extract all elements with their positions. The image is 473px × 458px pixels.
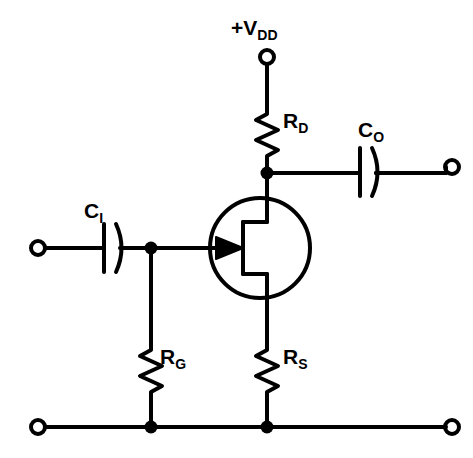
ground-source-node-junction (261, 421, 274, 434)
ground-left-terminal-icon (31, 420, 45, 434)
resistor-rd (256, 108, 278, 173)
resistor-rs (256, 344, 278, 427)
source-resistor-label-main: R (283, 345, 298, 368)
output-capacitor-label-sub: O (373, 129, 384, 145)
supply-terminal-icon (260, 50, 274, 64)
gate-resistor-label-sub: G (175, 356, 186, 372)
source-resistor-label: RS (283, 346, 308, 367)
input-capacitor-label: CI (84, 200, 103, 221)
circuit-diagram: +VDD RD CO CI RG RS (0, 0, 473, 458)
supply-label-main: +V (231, 16, 257, 39)
supply-label-sub: DD (257, 27, 277, 43)
drain-resistor-label-sub: D (298, 120, 308, 136)
output-capacitor-label: CO (358, 119, 384, 140)
resistor-rg (140, 344, 162, 427)
gate-resistor-label-main: R (160, 345, 175, 368)
input-capacitor-label-main: C (84, 199, 99, 222)
gate-resistor-label: RG (160, 346, 186, 367)
jfet-gate-arrow-icon (216, 237, 243, 259)
gate-node-junction (145, 242, 158, 255)
schematic-canvas (0, 0, 473, 458)
input-capacitor-label-sub: I (99, 210, 103, 226)
drain-node-junction (261, 167, 274, 180)
output-capacitor-label-main: C (358, 118, 373, 141)
drain-resistor-label-main: R (283, 109, 298, 132)
source-resistor-label-sub: S (298, 356, 307, 372)
supply-label: +VDD (231, 17, 278, 38)
input-terminal-icon (31, 241, 45, 255)
drain-resistor-label: RD (283, 110, 308, 131)
ground-gate-node-junction (145, 421, 158, 434)
